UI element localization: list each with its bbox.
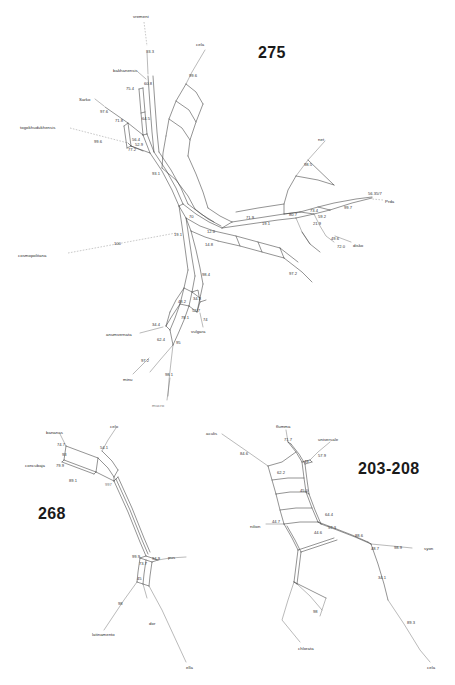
support-value: 62.2 bbox=[277, 470, 285, 475]
taxon-label-prda: Prda bbox=[385, 199, 394, 204]
support-value: 64.5 bbox=[142, 116, 150, 121]
support-value: 84.6 bbox=[240, 451, 248, 456]
support-value: 49 bbox=[304, 459, 309, 464]
support-value: 98.9 bbox=[394, 545, 402, 550]
support-value: 54.1 bbox=[100, 445, 108, 450]
taxon-label-universale: universale bbox=[318, 437, 338, 442]
support-value: 34.3 bbox=[193, 296, 201, 301]
support-value: 93 bbox=[62, 452, 67, 457]
taxon-label-bananas: bananas bbox=[46, 430, 63, 435]
taxon-label-cosmopolitana: cosmopolitana bbox=[18, 253, 46, 258]
support-value: 48.7 bbox=[371, 546, 379, 551]
taxon-label-pus: pus bbox=[168, 555, 175, 560]
taxon-label-syon: syon bbox=[424, 546, 433, 551]
support-value: 98.1 bbox=[165, 372, 173, 377]
support-value: 80.7 bbox=[289, 212, 297, 217]
taxon-label-vremeni: vremeni bbox=[133, 14, 149, 19]
support-value: 74.7 bbox=[57, 442, 65, 447]
support-value: 12.0 bbox=[207, 229, 215, 234]
support-value: 997 bbox=[105, 482, 112, 487]
support-value: 71.7 bbox=[284, 437, 292, 442]
taxon-label-vulgara: vulgara bbox=[191, 329, 205, 334]
panel-268-network bbox=[60, 428, 186, 662]
taxon-label-cela-2: cela bbox=[427, 665, 435, 670]
support-value: 94.9 bbox=[152, 556, 160, 561]
taxon-label-flumma: flumma bbox=[276, 424, 290, 429]
support-value: 77.2 bbox=[128, 147, 136, 152]
support-value: 21.9 bbox=[313, 221, 321, 226]
support-value: 48.2 bbox=[178, 299, 186, 304]
support-value: 99.6 bbox=[94, 139, 102, 144]
taxon-label-anumvernata: anumvernata bbox=[106, 332, 132, 337]
support-value: 72.0 bbox=[337, 244, 345, 249]
support-value: 57.9 bbox=[318, 453, 326, 458]
support-value: 64.4 bbox=[325, 512, 333, 517]
support-value: 79.9 bbox=[56, 463, 64, 468]
support-value: 44.7 bbox=[272, 519, 280, 524]
support-value: 70 bbox=[189, 214, 194, 219]
support-value: 97.2 bbox=[141, 358, 149, 363]
support-value: 99.7 bbox=[344, 205, 352, 210]
support-value: 44.6 bbox=[314, 530, 322, 535]
taxon-label-togokhudukhensis: togokhudukhensis bbox=[20, 125, 55, 130]
taxon-label-ella: ella bbox=[186, 665, 193, 670]
figure-root: 275 268 203-208 vremeni cela bakhanensis… bbox=[0, 0, 455, 685]
support-value: 97.6 bbox=[100, 109, 108, 114]
taxon-label-bakhanensis: bakhanensis bbox=[113, 68, 138, 73]
support-value: 93.1 bbox=[152, 171, 160, 176]
support-value: 34.1 bbox=[378, 575, 386, 580]
support-value: 78.1 bbox=[181, 315, 189, 320]
taxon-label-sarko: Sarko bbox=[79, 97, 90, 102]
support-value: 98.5 bbox=[304, 162, 312, 167]
panel-title-268: 268 bbox=[38, 505, 66, 523]
support-value: 97.2 bbox=[289, 271, 297, 276]
taxon-label-latinamento: latinamento bbox=[92, 632, 115, 637]
support-value: 45.0 bbox=[300, 488, 308, 493]
panel-title-203-208: 203-208 bbox=[358, 460, 420, 478]
taxon-label-chlorata: chlorata bbox=[298, 646, 314, 651]
support-value: 73.4 bbox=[310, 208, 318, 213]
support-value: 19.1 bbox=[262, 221, 270, 226]
support-value: 98 bbox=[313, 609, 318, 614]
support-value: 14.8 bbox=[205, 242, 213, 247]
support-value: 98 bbox=[118, 601, 123, 606]
support-value: 57.3 bbox=[328, 525, 336, 530]
taxon-label-net: net bbox=[318, 137, 324, 142]
support-value: 34.4 bbox=[152, 322, 160, 327]
support-value: 75.4 bbox=[126, 86, 134, 91]
support-value: 56.35/7 bbox=[368, 191, 382, 196]
support-value: 95 bbox=[176, 340, 181, 345]
taxon-label-minu: minu bbox=[123, 377, 133, 382]
support-value: 59.2 bbox=[318, 214, 326, 219]
support-value: 99.9 bbox=[132, 554, 140, 559]
support-value: 89.3 bbox=[407, 620, 415, 625]
support-value: 73.7 bbox=[139, 561, 147, 566]
taxon-label-dor: dor bbox=[149, 621, 155, 626]
support-value: 100 bbox=[114, 241, 121, 246]
taxon-label-concubaja: concubaja bbox=[25, 463, 45, 468]
support-value: 93.3 bbox=[146, 49, 154, 54]
taxon-label-aculis: aculis bbox=[206, 431, 217, 436]
support-value: 99.6 bbox=[189, 73, 197, 78]
support-value: 49.6 bbox=[331, 236, 339, 241]
support-value: 71.9 bbox=[246, 215, 254, 220]
support-value: 45 bbox=[137, 576, 142, 581]
taxon-label-cela: cela bbox=[196, 42, 204, 47]
taxon-label-disko: disko bbox=[353, 243, 363, 248]
taxon-label-mucro: mucro bbox=[152, 403, 164, 408]
support-value: 52.9 bbox=[135, 142, 143, 147]
taxon-label-nilion: nilion bbox=[250, 524, 260, 529]
support-value: 52.7 bbox=[192, 308, 200, 313]
panel-title-275: 275 bbox=[258, 44, 286, 62]
support-value: 62.4 bbox=[157, 337, 165, 342]
support-value: 60.8 bbox=[144, 81, 152, 86]
support-value: 89.1 bbox=[69, 478, 77, 483]
support-value: 88.6 bbox=[355, 533, 363, 538]
network-graphics bbox=[0, 0, 455, 685]
support-value: 98.4 bbox=[202, 272, 210, 277]
panel-275-leaders bbox=[68, 22, 383, 400]
support-value: 19.1 bbox=[174, 232, 182, 237]
taxon-label-celo: celo bbox=[110, 424, 118, 429]
support-value: 71.8 bbox=[115, 118, 123, 123]
support-value: 74 bbox=[203, 317, 208, 322]
